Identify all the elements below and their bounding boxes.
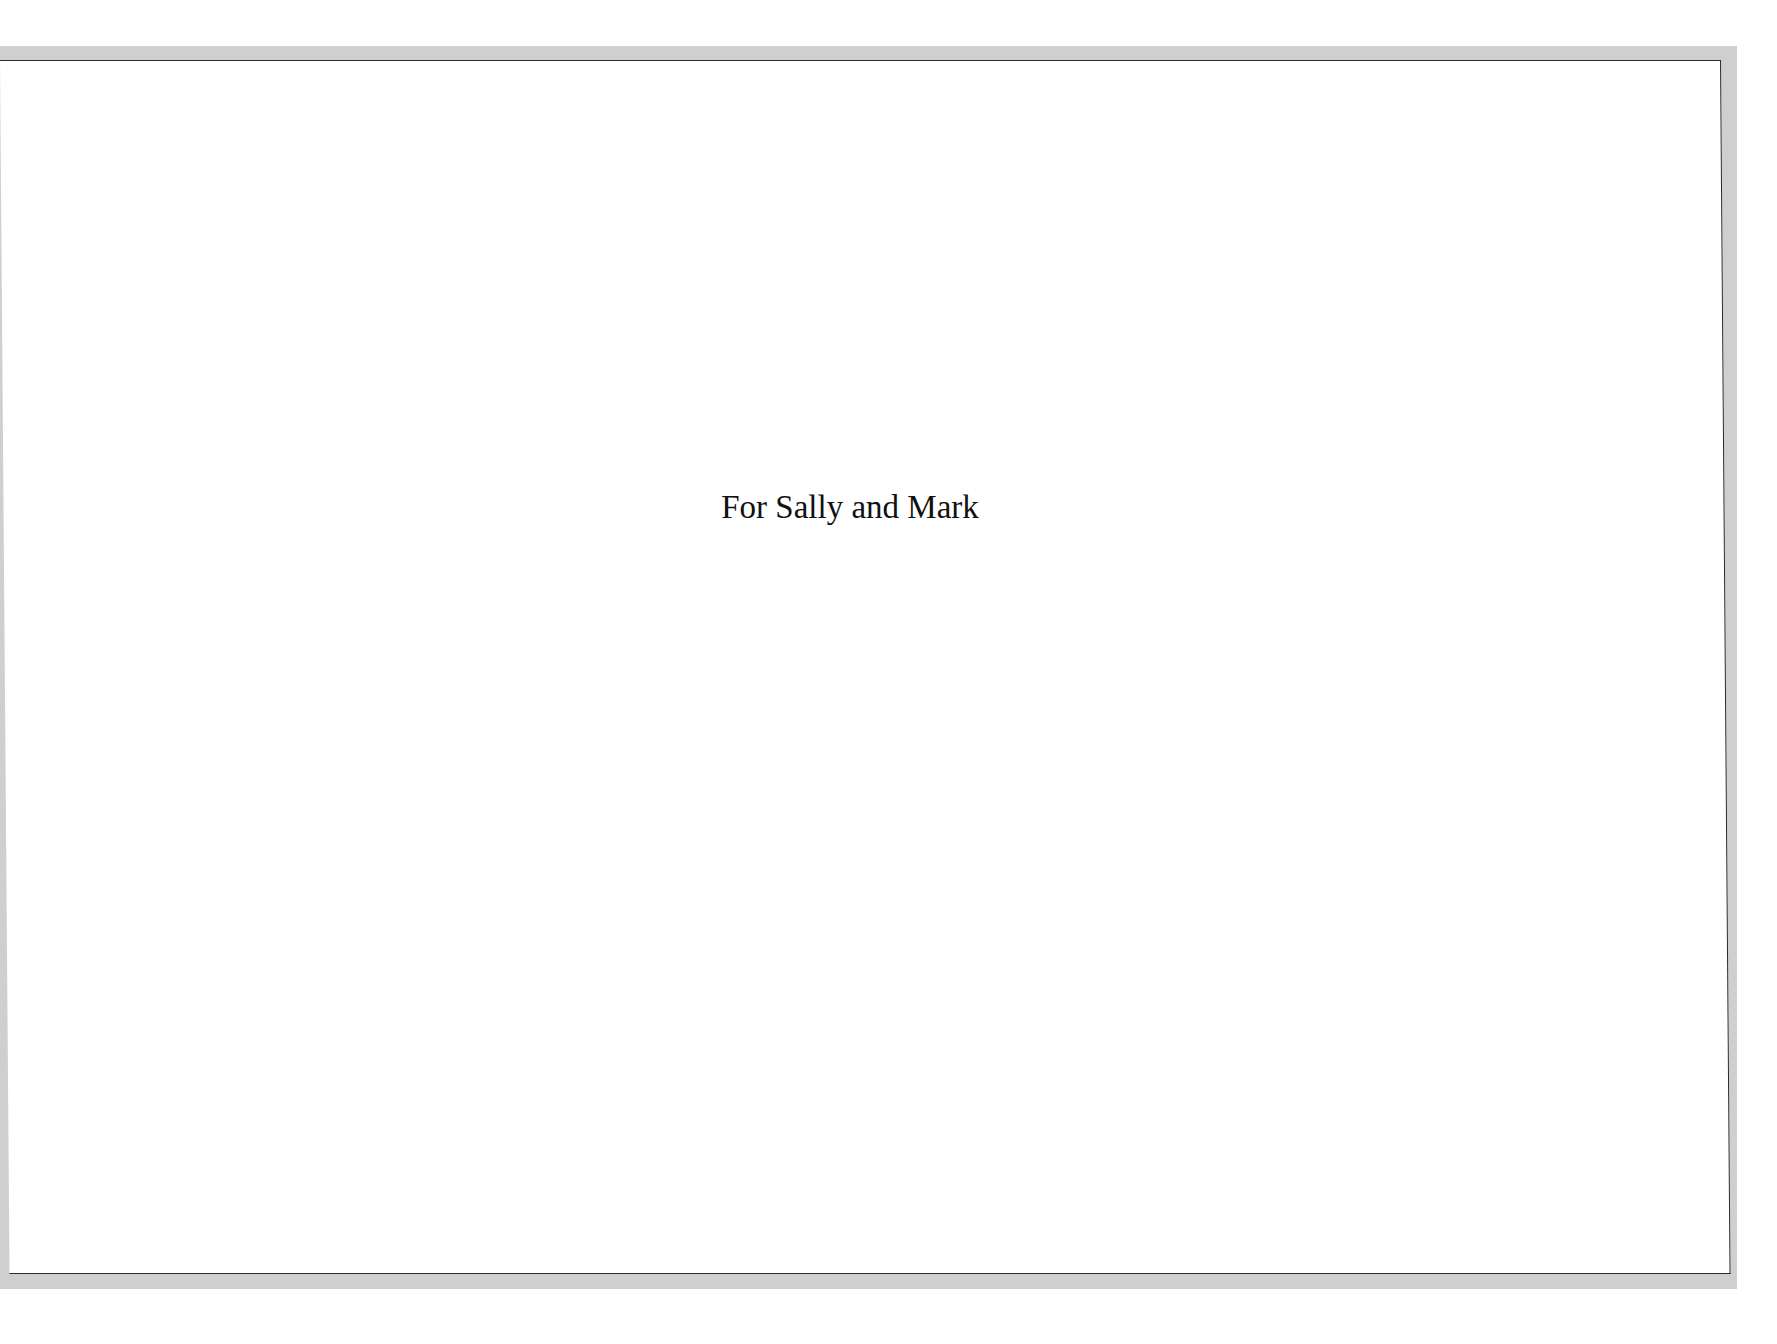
page-content: For Sally and Mark xyxy=(0,61,1720,1273)
book-page: For Sally and Mark xyxy=(0,60,1731,1274)
dedication-text: For Sally and Mark xyxy=(0,489,1700,526)
